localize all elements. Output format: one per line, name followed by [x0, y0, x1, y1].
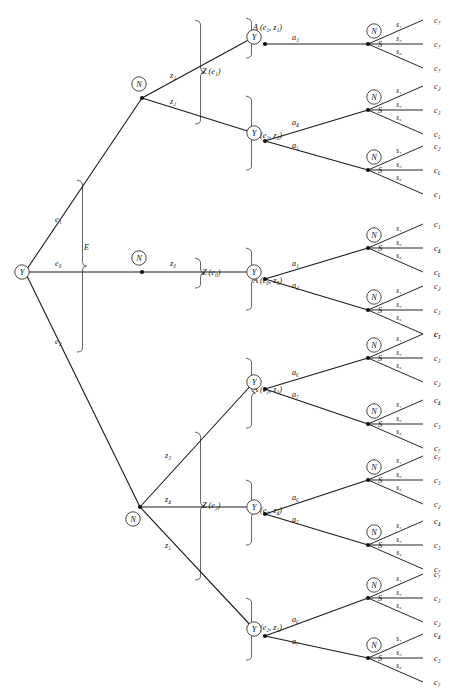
- action-edge-label-2-0: a₁: [292, 259, 299, 268]
- state-label-fan-a3-2: s₃: [396, 48, 402, 56]
- N-e2-junction-dot: [138, 505, 142, 509]
- state-junction-fan-a7a: [366, 422, 370, 426]
- nature-node-N-e2: N: [126, 512, 140, 526]
- state-label-fan-a2-1: s₂: [396, 301, 402, 309]
- action-edge-3-0: [265, 358, 368, 389]
- leaf-fan-a5-1: c₆: [434, 166, 441, 175]
- state-junction-fan-a5: [366, 168, 370, 172]
- state-nature-node-fan-a3: N: [367, 24, 381, 38]
- experiment-edge-label-1: e₀: [55, 259, 62, 268]
- state-fan-label-fan-a6c: S: [378, 594, 382, 603]
- action-edge-label-1-1: a₅: [292, 141, 299, 150]
- decision-node-Y-z5: Y: [247, 622, 261, 636]
- state-nature-node-fan-a2: N: [367, 290, 381, 304]
- leaf-fan-a3-2: c₇: [434, 64, 441, 73]
- experiment-edge-label-2: e₂: [55, 337, 62, 346]
- state-label-fan-a7c-2: s₃: [396, 662, 402, 670]
- state-label-fan-a4-0: s₁: [396, 87, 402, 95]
- state-junction-fan-a6b: [366, 478, 370, 482]
- state-label-fan-a1-1: s₂: [396, 239, 402, 247]
- decision-node-Y-z1: Y: [247, 30, 261, 44]
- leaf-fan-a3-1: c₇: [434, 40, 441, 49]
- decision-tree-diagram: EZ (e₁)Z (e₀)Z (e₂)A (e₁, z₁)A (e₁, z₂)A…: [0, 0, 461, 690]
- Y-z1-junction-dot: [263, 42, 267, 46]
- state-nature-node-fan-a6a: N: [367, 338, 381, 352]
- state-nature-node-fan-a1-label: N: [370, 231, 377, 240]
- leaf-fan-a6a-0: c₇: [434, 330, 441, 339]
- action-edge-label-4-1: a₇: [292, 515, 299, 524]
- state-nature-node-fan-a7c-label: N: [370, 641, 377, 650]
- state-junction-fan-a7b: [366, 543, 370, 547]
- leaf-fan-a7b-1: c₃: [434, 541, 441, 550]
- state-nature-node-fan-a6b: N: [367, 460, 381, 474]
- nature-node-N-e0: N: [132, 251, 146, 265]
- state-nature-node-fan-a7b: N: [367, 525, 381, 539]
- state-label-fan-a3-1: s₂: [396, 35, 402, 43]
- state-label-fan-a6b-2: s₃: [396, 484, 402, 492]
- state-fan-label-fan-a6b: S: [378, 476, 382, 485]
- leaf-fan-a5-2: c₁: [434, 190, 441, 199]
- state-fan-label-fan-a3: S: [378, 40, 382, 49]
- state-label-fan-a6a-1: s₂: [396, 349, 402, 357]
- brace-experiment: [77, 180, 87, 352]
- leaf-fan-a6c-0: c₇: [434, 570, 441, 579]
- action-edge-3-1: [265, 389, 368, 424]
- leaf-fan-a4-0: c₂: [434, 82, 441, 91]
- outcome-edge-label-2: z₀: [169, 259, 176, 268]
- state-fan-label-fan-a1: S: [378, 244, 382, 253]
- leaf-fan-a1-1: c₄: [434, 244, 441, 253]
- state-nature-node-fan-a7a-label: N: [370, 407, 377, 416]
- action-edge-label-4-0: a₆: [292, 493, 299, 502]
- leaf-fan-a7c-1: c₃: [434, 654, 441, 663]
- state-label-fan-a5-1: s₂: [396, 161, 402, 169]
- nature-node-N-e1: N: [132, 77, 146, 91]
- outcome-edge-5: [140, 507, 254, 629]
- Y-z2-junction-dot: [263, 139, 267, 143]
- experiment-edge-label-0: e₁: [55, 215, 62, 224]
- leaf-fan-a6c-2: c₂: [434, 618, 441, 627]
- leaf-fan-a4-2: c₅: [434, 130, 441, 139]
- state-nature-node-fan-a7b-label: N: [370, 528, 377, 537]
- state-label-fan-a7a-0: s₁: [396, 401, 402, 409]
- outcome-edge-label-1: z₂: [169, 97, 176, 106]
- leaf-fan-a2-0: c₂: [434, 282, 441, 291]
- state-nature-node-fan-a6b-label: N: [370, 463, 377, 472]
- action-edge-label-2-1: a₂: [292, 281, 299, 290]
- brace-outcome-e2-label: Z (e₂): [202, 501, 221, 510]
- state-label-fan-a2-0: s₁: [396, 287, 402, 295]
- state-nature-node-fan-a6c-label: N: [370, 581, 377, 590]
- state-junction-fan-a1: [366, 246, 370, 250]
- state-label-fan-a6a-0: s₁: [396, 335, 402, 343]
- brace-label-experiment: E: [83, 243, 89, 252]
- outcome-edge-3: [140, 382, 254, 507]
- leaf-fan-a6b-2: c₂: [434, 500, 441, 509]
- state-nature-node-fan-a5-label: N: [370, 153, 377, 162]
- action-edge-label-0-0: a₃: [292, 33, 299, 42]
- state-label-fan-a1-0: s₁: [396, 225, 402, 233]
- Y-z4-junction-dot: [263, 512, 267, 516]
- action-edge-2-1: [265, 279, 368, 310]
- decision-node-Y-z4: Y: [247, 500, 261, 514]
- Y-z3-junction-dot: [263, 387, 267, 391]
- state-nature-node-fan-a6c: N: [367, 578, 381, 592]
- decision-node-Y-z3: Y: [247, 375, 261, 389]
- action-edge-2-0: [265, 248, 368, 279]
- nature-node-N-e2-label: N: [129, 515, 136, 524]
- nature-node-N-e1-label: N: [135, 80, 142, 89]
- state-label-fan-a5-0: s₁: [396, 147, 402, 155]
- leaf-fan-a1-0: c₁: [434, 220, 441, 229]
- leaf-fan-a6b-1: c₃: [434, 476, 441, 485]
- leaf-fan-a2-1: c₃: [434, 306, 441, 315]
- state-nature-node-fan-a6a-label: N: [370, 341, 377, 350]
- decision-node-Y-z0: Y: [247, 265, 261, 279]
- state-label-fan-a6c-0: s₁: [396, 575, 402, 583]
- action-edge-4-0: [265, 480, 368, 514]
- outcome-edge-label-4: z₄: [164, 495, 171, 504]
- state-fan-label-fan-a2: S: [378, 306, 382, 315]
- state-nature-node-fan-a5: N: [367, 150, 381, 164]
- state-nature-node-fan-a7c: N: [367, 638, 381, 652]
- decision-node-Y-z2: Y: [247, 126, 261, 140]
- state-fan-label-fan-a6a: S: [378, 354, 382, 363]
- state-label-fan-a7b-0: s₁: [396, 522, 402, 530]
- state-label-fan-a6b-0: s₁: [396, 457, 402, 465]
